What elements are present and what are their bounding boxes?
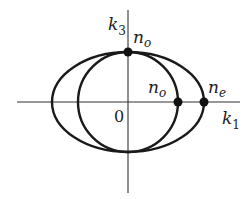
point-axis-no	[174, 98, 183, 107]
label-axis-ne: ne	[208, 77, 226, 100]
label-top-no: no	[133, 27, 151, 50]
k3-label: k3	[108, 14, 126, 38]
point-axis-ne	[200, 98, 209, 107]
origin-label: 0	[114, 107, 124, 126]
index-surface-diagram: k3 k1 0 no no ne	[0, 0, 249, 199]
point-top-no	[124, 48, 133, 57]
k1-label: k1	[222, 108, 240, 132]
label-axis-no: no	[148, 77, 166, 100]
